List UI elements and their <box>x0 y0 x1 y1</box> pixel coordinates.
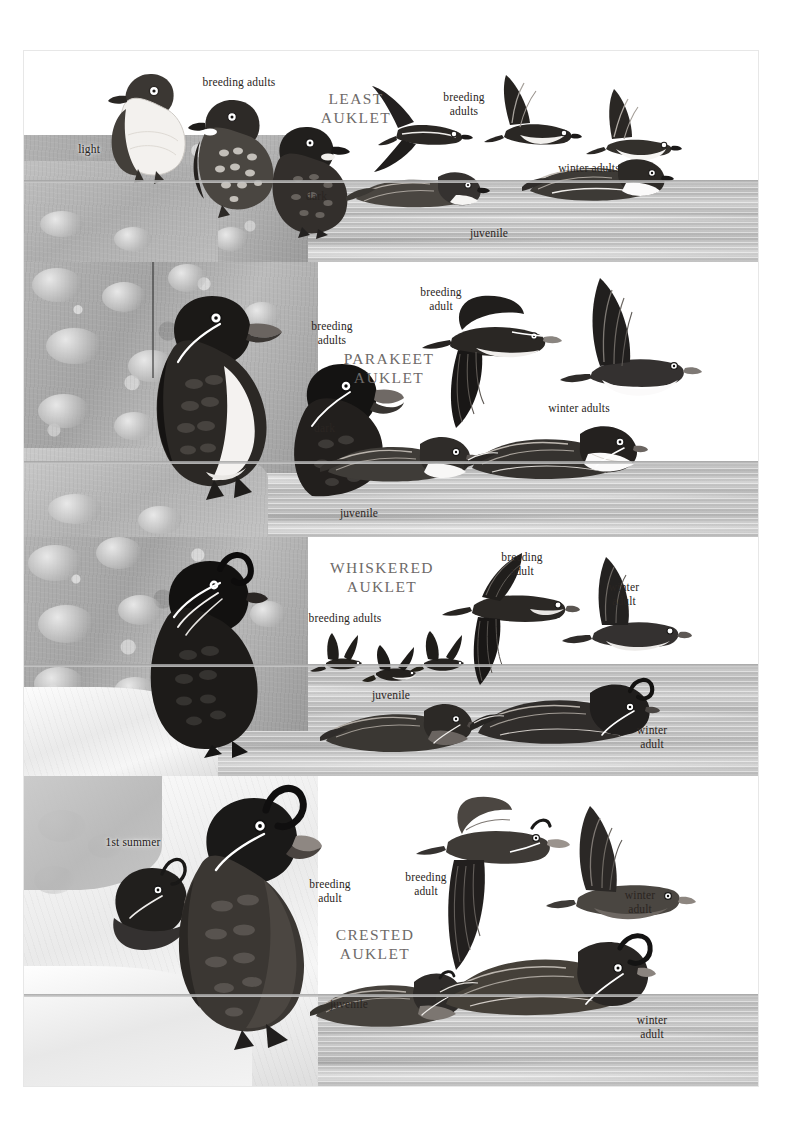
species-title-least-auklet: LEAST AUKLET <box>300 90 412 128</box>
bird-whiskered-auklet-breeding-large <box>124 549 274 759</box>
panel-whiskered-auklet: WHISKERED AUKLET breeding adults breedin… <box>24 537 758 776</box>
species-title-crested-auklet: CRESTED AUKLET <box>300 926 450 964</box>
label-breeding-adults-flying: breeding adults <box>429 91 499 118</box>
panel-parakeet-auklet: PARAKEET AUKLET breeding adults dark juv… <box>24 262 758 537</box>
horizon-line <box>24 994 758 997</box>
horizon-line <box>24 664 758 667</box>
bird-whiskered-auklet-flying-small-1 <box>310 633 366 681</box>
horizon-line <box>24 461 758 464</box>
label-dark: dark <box>314 422 364 436</box>
label-breeding-adult-flying: breeding adult <box>388 871 464 898</box>
bird-least-auklet-juvenile-swimming <box>346 161 490 223</box>
species-title-whiskered-auklet: WHISKERED AUKLET <box>302 559 462 597</box>
panel-crested-auklet: CRESTED AUKLET 1st summer breeding adult… <box>24 776 758 1086</box>
bird-whiskered-auklet-juvenile <box>320 695 480 767</box>
label-winter-adult-flying: winter adult <box>610 889 670 916</box>
label-juvenile: juvenile <box>314 998 384 1012</box>
label-winter-adult-flying: winter adult <box>594 581 654 608</box>
illustration-plate: LEAST AUKLET light breeding adults dark … <box>23 50 759 1087</box>
label-winter-adult-swimming: winter adult <box>622 724 682 751</box>
bird-parakeet-auklet-flying-winter <box>552 276 702 418</box>
species-title-parakeet-auklet: PARAKEET AUKLET <box>314 350 464 388</box>
bird-parakeet-auklet-breeding-large <box>128 288 288 503</box>
bird-least-auklet-winter-swimming <box>522 151 674 215</box>
bird-parakeet-auklet-winter-swimming <box>464 420 648 498</box>
label-1st-summer: 1st summer <box>86 836 180 850</box>
label-winter-adults: winter adults <box>524 402 634 416</box>
label-juvenile: juvenile <box>454 227 524 241</box>
label-winter-adult-swimming: winter adult <box>622 1014 682 1041</box>
horizon-line <box>24 180 758 183</box>
label-dark: dark <box>306 190 356 204</box>
label-breeding-adult-flying: breeding adult <box>484 551 560 578</box>
label-breeding-adults: breeding adults <box>280 612 410 626</box>
label-light: light <box>40 143 100 157</box>
label-juvenile: juvenile <box>324 507 394 521</box>
label-juvenile: juvenile <box>356 689 426 703</box>
label-breeding-adults-perched: breeding adults <box>174 76 304 90</box>
bird-crested-auklet-breeding-large <box>142 784 314 1052</box>
label-breeding-adult-perched: breeding adult <box>292 878 368 905</box>
bird-crested-auklet-flying-winter <box>544 804 696 944</box>
label-breeding-adult-flying: breeding adult <box>406 286 476 313</box>
panel-least-auklet: LEAST AUKLET light breeding adults dark … <box>24 51 758 262</box>
bird-whiskered-auklet-flying-winter <box>552 555 692 673</box>
label-breeding-adults: breeding adults <box>292 320 372 347</box>
label-winter-adults: winter adults <box>534 162 644 176</box>
